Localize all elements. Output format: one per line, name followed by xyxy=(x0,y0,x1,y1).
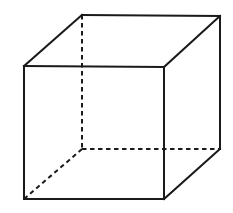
cube-diagram xyxy=(0,0,233,213)
cube-edge xyxy=(164,149,220,199)
cube-edge xyxy=(24,15,82,66)
cube-edge xyxy=(164,16,220,67)
cube-edge xyxy=(82,15,220,16)
visible-edges xyxy=(24,15,220,199)
cube-edge xyxy=(24,66,164,67)
cube-hidden-edge xyxy=(24,149,82,199)
